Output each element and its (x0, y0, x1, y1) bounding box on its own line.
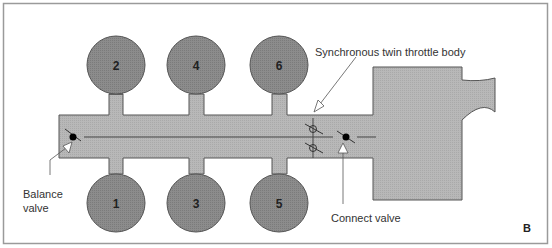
cylinder-4: 4 (167, 36, 225, 94)
cylinder-number: 1 (113, 197, 120, 211)
throttle-body-label: Synchronous twin throttle body (315, 46, 466, 58)
balance-valve-label-line2: valve (23, 202, 49, 214)
cylinder-number: 5 (276, 197, 283, 211)
cylinder-3: 3 (167, 174, 225, 232)
cylinder-number: 2 (113, 59, 120, 73)
cylinder-number: 6 (276, 59, 283, 73)
panel-label: B (523, 222, 531, 234)
cylinder-5: 5 (250, 174, 308, 232)
cylinder-6: 6 (250, 36, 308, 94)
cylinder-number: 4 (193, 59, 200, 73)
intake-manifold-diagram: 2 4 6 1 3 5 (0, 0, 552, 248)
cylinder-2: 2 (87, 36, 145, 94)
cylinder-number: 3 (193, 197, 200, 211)
balance-valve-label-line1: Balance (23, 188, 63, 200)
connect-valve-label: Connect valve (331, 212, 401, 224)
cylinder-1: 1 (87, 174, 145, 232)
